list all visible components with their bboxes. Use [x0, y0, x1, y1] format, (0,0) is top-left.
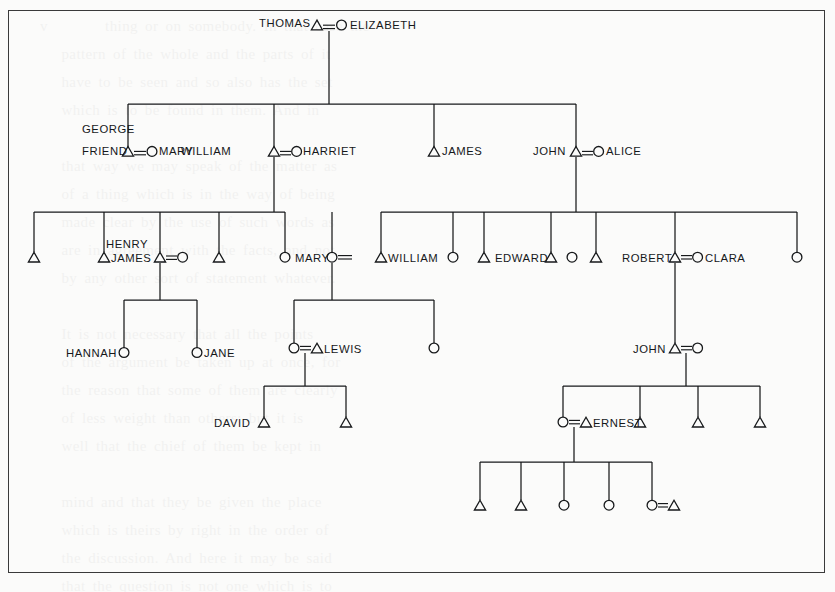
gen5-sibship-john-children: ERNEST — [558, 386, 766, 462]
symbol-female-harriet — [292, 147, 302, 157]
label-john-g2: JOHN — [533, 145, 566, 157]
symbol-male-g5-5 — [692, 417, 703, 427]
symbol-female-lewis-wife — [289, 343, 299, 353]
symbol-male-g5-6 — [754, 417, 765, 427]
label-william-g2: WILLIAM — [181, 145, 231, 157]
label-mary-g3: MARY — [295, 252, 330, 264]
gen4-sibship-hannah-jane: HANNAH JANE — [66, 300, 235, 359]
symbol-male-henry-james — [98, 252, 109, 262]
gen3-sibship-left: HENRY JAMES — [28, 212, 290, 300]
symbol-male-g3-9 — [478, 252, 489, 262]
label-thomas: THOMAS — [259, 17, 311, 29]
gen3-mary-william-union: MARY — [295, 212, 352, 300]
label-david: DAVID — [214, 417, 250, 429]
label-hannah: HANNAH — [66, 347, 117, 359]
symbol-male-g3-1 — [28, 252, 39, 262]
symbol-female-ernest-wife — [558, 417, 568, 427]
symbol-female-g3-8 — [448, 252, 458, 262]
symbol-male-g3-12 — [590, 252, 601, 262]
gen6-sibship — [474, 462, 679, 510]
label-alice: ALICE — [606, 145, 641, 157]
symbol-female-john-g4-wife — [693, 343, 703, 353]
gen4-john-union: JOHN — [633, 300, 702, 386]
symbol-female-g4-4 — [429, 343, 439, 353]
gen5-sibship-lewis-children: DAVID — [214, 386, 352, 429]
label-friend: FRIEND — [82, 145, 127, 157]
symbol-female-g3-15 — [792, 252, 802, 262]
symbol-male-william-g3 — [375, 252, 386, 262]
symbol-female-g6-5 — [647, 500, 657, 510]
scanned-page: v thing or on somebody. In that case the… — [0, 0, 835, 592]
symbol-female-g6-4 — [604, 500, 614, 510]
gen3-sibship-right: WILLIAM EDWARD ROBERT CLARA — [375, 212, 801, 300]
symbol-female-mary-g2 — [147, 147, 157, 157]
label-james-g2: JAMES — [442, 145, 482, 157]
symbol-female-g3-11 — [567, 252, 577, 262]
symbol-male-g3-4 — [213, 252, 224, 262]
symbol-female-clara — [693, 252, 703, 262]
label-clara: CLARA — [705, 252, 745, 264]
symbol-female-elizabeth — [337, 20, 347, 30]
symbol-female-alice — [594, 147, 604, 157]
symbol-female-g3-3-spouse — [178, 252, 188, 262]
symbol-male-g5-2 — [340, 417, 351, 427]
label-george: GEORGE — [82, 123, 135, 135]
label-elizabeth: ELIZABETH — [350, 19, 416, 31]
symbol-female-g3-5 — [280, 252, 290, 262]
label-james-g3: JAMES — [111, 252, 151, 264]
symbol-male-david — [258, 417, 269, 427]
label-john-g4: JOHN — [633, 343, 666, 355]
symbol-male-thomas — [311, 20, 322, 30]
symbol-male-g6-5-spouse — [668, 500, 679, 510]
label-edward: EDWARD — [495, 252, 548, 264]
symbol-female-hannah — [119, 348, 129, 358]
symbol-male-g3-3 — [154, 252, 165, 262]
symbol-male-john-g4 — [669, 343, 680, 353]
gen2-sibship: GEORGE FRIEND MARY WILLIAM HARRIET JAMES… — [82, 104, 641, 212]
symbol-male-lewis — [311, 343, 322, 353]
label-harriet: HARRIET — [303, 145, 356, 157]
label-henry: HENRY — [106, 238, 148, 250]
gen1-group: THOMAS ELIZABETH — [259, 17, 416, 104]
label-jane: JANE — [204, 347, 235, 359]
symbol-male-g6-2 — [515, 500, 526, 510]
genealogy-chart: THOMAS ELIZABETH GEORGE FRIEND MARY — [0, 0, 835, 592]
label-william-g3: WILLIAM — [388, 252, 438, 264]
symbol-male-ernest — [580, 417, 591, 427]
label-robert: ROBERT — [622, 252, 672, 264]
symbol-male-g6-1 — [474, 500, 485, 510]
symbol-female-g6-3 — [559, 500, 569, 510]
gen4-sibship-lewis: LEWIS — [289, 300, 439, 386]
symbol-female-jane — [192, 348, 202, 358]
label-lewis: LEWIS — [324, 343, 362, 355]
